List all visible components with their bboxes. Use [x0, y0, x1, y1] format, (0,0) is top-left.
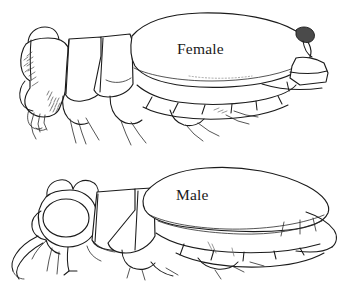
male-sternite-lower-edge — [176, 253, 324, 267]
female-sternite-div-4 — [231, 104, 232, 113]
male-compound-eye — [43, 199, 89, 237]
male-palp-1 — [47, 248, 52, 271]
male-midleg-claw — [166, 268, 178, 275]
male-label: Male — [176, 187, 209, 203]
male-hindleg-femur — [215, 270, 221, 279]
male-specimen-drawing — [12, 167, 336, 280]
female-midleg-tibia — [131, 122, 146, 143]
female-specimen-drawing — [20, 13, 328, 145]
female-midleg-femur — [121, 121, 131, 145]
female-hindleg-tarsus — [226, 115, 249, 124]
male-foreleg-tibia — [64, 247, 69, 275]
male-ventral-hatching — [208, 242, 234, 256]
female-sternite-div-6 — [278, 96, 282, 104]
female-sternite-div-5 — [256, 101, 257, 110]
male-hindleg-tarsus — [250, 262, 264, 266]
male-mandible-inner — [32, 240, 47, 259]
female-hindleg-claw — [234, 111, 258, 117]
female-posterior-division — [287, 82, 289, 91]
male-sternite-div-1 — [180, 244, 184, 255]
female-midleg-coxa — [110, 96, 142, 124]
female-hindleg-femur — [186, 125, 203, 141]
female-palp-1 — [31, 113, 36, 139]
female-hindleg-tibia — [198, 123, 219, 136]
female-label: Female — [177, 41, 224, 57]
line-drawing-canvas — [0, 0, 345, 281]
female-ventral-hatching — [214, 108, 227, 113]
female-sternite-div-1 — [146, 97, 152, 108]
female-sternite-div-3 — [202, 105, 205, 114]
male-midleg-tibia — [142, 270, 145, 280]
female-foreleg-tarsus — [86, 118, 99, 140]
male-sternite-div-3 — [243, 252, 244, 261]
female-sternite-lower-edge — [143, 105, 288, 119]
male-mandible-tip — [13, 271, 24, 279]
male-prosternum-line — [87, 246, 101, 261]
female-posterior-plate — [290, 57, 328, 85]
male-palp-2 — [57, 252, 59, 274]
male-mandible-upper — [12, 236, 38, 271]
female-sternite-div-2 — [173, 103, 178, 113]
male-hindleg-coxa — [198, 258, 238, 269]
male-midleg-femur — [127, 268, 130, 278]
male-sternite-outline — [156, 233, 320, 253]
illustration-figure: Female Male — [0, 0, 345, 281]
female-head — [21, 38, 69, 117]
